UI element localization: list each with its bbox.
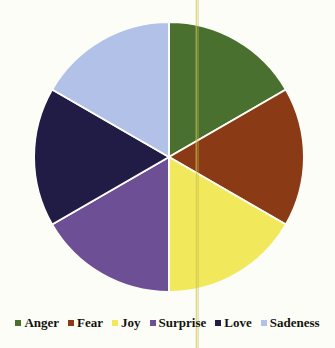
legend-swatch-icon [150, 320, 156, 326]
legend-label: Fear [77, 315, 103, 331]
pie-svg [0, 0, 335, 310]
legend-item-love[interactable]: Love [215, 315, 251, 331]
legend-item-sadeness[interactable]: Sadeness [261, 315, 320, 331]
pie-plot-area [0, 0, 335, 310]
legend-swatch-icon [261, 320, 267, 326]
legend-item-anger[interactable]: Anger [15, 315, 59, 331]
pie-chart-figure: AngerFearJoySurpriseLoveSadeness [0, 0, 335, 348]
legend-label: Anger [24, 315, 59, 331]
legend-swatch-icon [15, 320, 21, 326]
legend-label: Sadeness [270, 315, 320, 331]
legend-item-joy[interactable]: Joy [112, 315, 141, 331]
legend-swatch-icon [215, 320, 221, 326]
legend-label: Surprise [159, 315, 207, 331]
legend-swatch-icon [68, 320, 74, 326]
chart-legend: AngerFearJoySurpriseLoveSadeness [0, 313, 335, 333]
legend-label: Joy [121, 315, 141, 331]
legend-swatch-icon [112, 320, 118, 326]
legend-item-fear[interactable]: Fear [68, 315, 103, 331]
legend-item-surprise[interactable]: Surprise [150, 315, 207, 331]
pie-slice-group [34, 22, 304, 292]
legend-label: Love [224, 315, 251, 331]
